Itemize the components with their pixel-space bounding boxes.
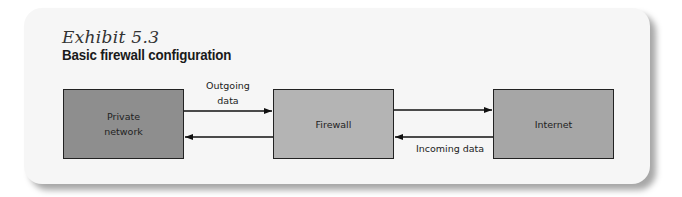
arrows xyxy=(0,0,682,197)
